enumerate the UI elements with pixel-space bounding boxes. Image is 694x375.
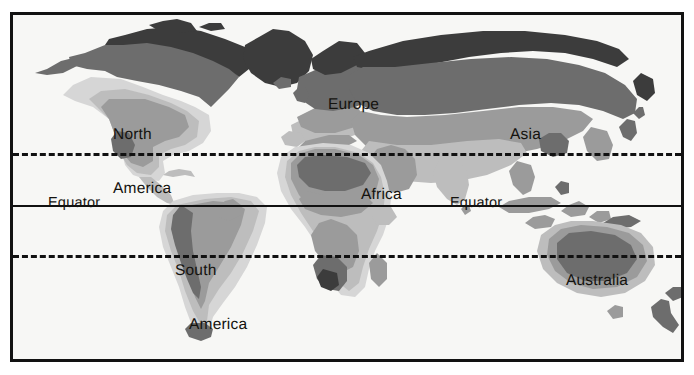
label-australia: Australia	[566, 272, 628, 290]
label-equator-left: Equator	[48, 195, 100, 212]
label-equator-right: Equator	[450, 195, 502, 212]
label-asia: Asia	[510, 126, 541, 144]
label-south-america-line2: America	[175, 316, 247, 334]
label-north-america-line1: North	[113, 126, 171, 144]
label-africa: Africa	[361, 186, 402, 204]
map-frame: North America South America Europe Asia …	[10, 12, 684, 362]
label-south-america: South America	[175, 225, 247, 362]
map-page: North America South America Europe Asia …	[0, 0, 694, 375]
label-europe: Europe	[328, 96, 379, 114]
label-south-america-line1: South	[175, 262, 247, 280]
label-north-america-line2: America	[113, 180, 171, 198]
label-north-america: North America	[113, 89, 171, 235]
